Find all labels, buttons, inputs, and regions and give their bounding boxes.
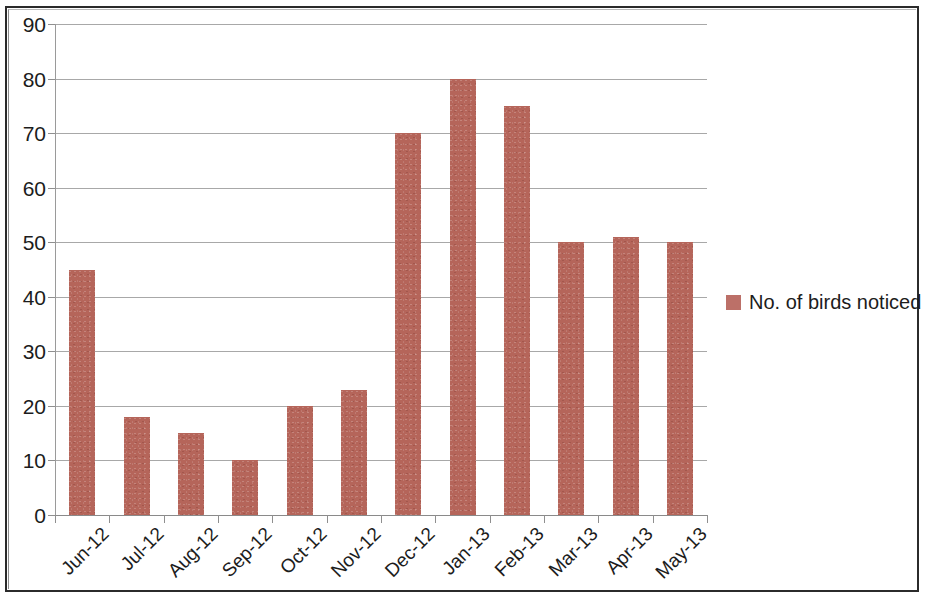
y-axis-tick-mark (48, 133, 55, 134)
x-axis-tick-label: Sep-12 (218, 523, 277, 582)
y-axis-tick-mark (48, 79, 55, 80)
bar (504, 106, 530, 515)
x-axis-tick-mark (109, 515, 110, 523)
bar-series-no-of-birds-noticed (55, 24, 707, 515)
bar (178, 433, 204, 515)
y-axis-tick-label: 50 (4, 232, 46, 253)
chart-legend: No. of birds noticed (726, 292, 921, 312)
x-axis-labels: Jun-12Jul-12Aug-12Sep-12Oct-12Nov-12Dec-… (55, 523, 735, 593)
y-axis-tick-label: 30 (4, 341, 46, 362)
x-axis-tick-mark (435, 515, 436, 523)
x-axis-tick-mark (707, 515, 708, 523)
bar (395, 133, 421, 515)
legend-color-swatch-icon (726, 295, 741, 310)
y-axis-labels: 0102030405060708090 (0, 24, 46, 515)
x-axis-tick-mark (272, 515, 273, 523)
bar (450, 79, 476, 515)
x-axis-tick-mark (381, 515, 382, 523)
y-axis-tick-label: 70 (4, 123, 46, 144)
y-axis-tick-label: 60 (4, 177, 46, 198)
y-axis-tick-mark (48, 242, 55, 243)
x-axis-tick-label: Apr-13 (601, 523, 657, 579)
x-axis-tick-label: Oct-12 (275, 523, 331, 579)
y-axis-tick-label: 40 (4, 286, 46, 307)
bar (341, 390, 367, 515)
x-axis-tick-mark (327, 515, 328, 523)
x-axis-tick-label: Mar-13 (545, 523, 603, 581)
chart-page: 0102030405060708090 Jun-12Jul-12Aug-12Se… (0, 0, 927, 598)
x-axis-tick-label: May-13 (651, 523, 711, 583)
y-axis-tick-mark (48, 406, 55, 407)
x-axis-tick-label: Dec-12 (381, 523, 440, 582)
bar (613, 237, 639, 515)
y-axis-tick-mark (48, 515, 55, 516)
x-axis-tick-mark (490, 515, 491, 523)
x-axis-tick-label: Jun-12 (57, 523, 114, 580)
bar (232, 460, 258, 515)
x-axis-tick-label: Jul-12 (116, 523, 168, 575)
bar (667, 242, 693, 515)
y-axis-tick-label: 20 (4, 395, 46, 416)
bar (124, 417, 150, 515)
x-axis-tick-mark (544, 515, 545, 523)
y-axis-tick-mark (48, 188, 55, 189)
y-axis-tick-label: 10 (4, 450, 46, 471)
bar (287, 406, 313, 515)
y-axis-tick-mark (48, 297, 55, 298)
x-axis-tick-label: Feb-13 (490, 523, 548, 581)
y-axis-tick-mark (48, 351, 55, 352)
x-axis-tick-mark (55, 515, 56, 523)
x-axis-tick-label: Aug-12 (163, 523, 222, 582)
y-axis-tick-mark (48, 460, 55, 461)
y-axis-tick-label: 80 (4, 68, 46, 89)
x-axis-tick-mark (164, 515, 165, 523)
x-axis-tick-mark (598, 515, 599, 523)
y-axis-tick-label: 0 (4, 505, 46, 526)
x-axis-tick-mark (218, 515, 219, 523)
bar (558, 242, 584, 515)
x-axis-tick-label: Nov-12 (327, 523, 386, 582)
x-axis-tick-label: Jan-13 (437, 523, 494, 580)
y-axis-tick-mark (48, 24, 55, 25)
bar (69, 270, 95, 516)
legend-item-label: No. of birds noticed (749, 292, 921, 312)
x-axis-tick-mark (653, 515, 654, 523)
y-axis-tick-label: 90 (4, 14, 46, 35)
